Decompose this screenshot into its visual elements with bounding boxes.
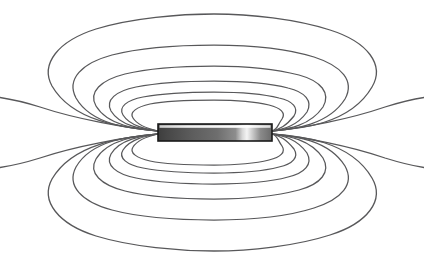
- field-lines-bottom: [48, 134, 376, 251]
- field-lines-top: [48, 14, 376, 131]
- field-line-top-5: [73, 45, 348, 131]
- field-line-bottom-6: [48, 134, 376, 251]
- magnet-top-highlight: [160, 125, 271, 128]
- magnetic-field-figure: [0, 0, 424, 260]
- field-line-diagram: [0, 0, 424, 260]
- field-line-top-6: [48, 14, 376, 131]
- bar-magnet: [158, 124, 272, 141]
- field-line-bottom-5: [73, 134, 348, 220]
